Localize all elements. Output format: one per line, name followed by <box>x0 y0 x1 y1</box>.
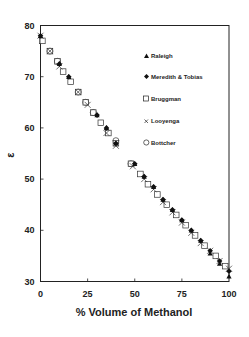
y-tick-label: 80 <box>24 21 34 31</box>
legend-item-raleigh: Raleigh <box>144 53 173 59</box>
data-point-open-square <box>213 253 219 259</box>
data-point-open-square <box>222 263 228 269</box>
x-tick-label: 25 <box>83 289 93 299</box>
data-points <box>38 33 233 279</box>
x-tick-label: 75 <box>177 289 187 299</box>
data-point-open-square <box>183 222 189 228</box>
legend-label: Meredith & Tobias <box>151 74 203 80</box>
filled-diamond-icon <box>144 74 149 79</box>
data-point-open-square <box>164 202 170 208</box>
x-cross-icon <box>145 120 149 124</box>
data-point-open-square <box>145 181 151 187</box>
data-point-open-square <box>60 69 66 75</box>
x-axis-title: % Volume of Methanol <box>76 306 193 318</box>
y-tick-label: 70 <box>24 72 34 82</box>
data-point-open-square <box>155 192 161 198</box>
y-tick-label: 40 <box>24 225 34 235</box>
data-point-open-square <box>83 100 89 106</box>
legend: Raleigh Meredith & Tobias Bruggman Looye… <box>144 53 204 146</box>
filled-triangle-icon <box>144 54 149 59</box>
legend-item-bruggman: Bruggman <box>144 96 182 102</box>
data-point-open-square <box>192 233 198 239</box>
data-point-filled-triangle <box>226 274 231 279</box>
legend-label: Looyenga <box>151 118 180 124</box>
data-point-open-square <box>202 243 208 249</box>
data-point-open-square <box>98 120 104 126</box>
y-tick-label: 50 <box>24 174 34 184</box>
open-circle-icon <box>144 140 149 145</box>
legend-label: Raleigh <box>151 53 173 59</box>
data-point-open-square <box>68 79 74 85</box>
dielectric-constant-chart: 304050607080 0255075100 ε % Volume of Me… <box>0 0 249 337</box>
legend-item-bottcher: Bottcher <box>144 140 177 146</box>
legend-label: Bruggman <box>151 96 181 102</box>
open-square-icon <box>144 96 149 101</box>
x-tick-label: 0 <box>38 289 43 299</box>
x-tick-label: 50 <box>130 289 140 299</box>
legend-item-looyenga: Looyenga <box>145 118 180 124</box>
y-tick-label: 30 <box>24 277 34 287</box>
data-point-open-square <box>173 212 179 218</box>
legend-label: Bottcher <box>151 140 176 146</box>
legend-item-meredith-tobias: Meredith & Tobias <box>144 74 203 80</box>
data-point-filled-diamond <box>226 268 232 274</box>
y-tick-label: 60 <box>24 123 34 133</box>
data-point-open-square <box>40 38 46 44</box>
y-axis-title: ε <box>4 152 16 158</box>
x-tick-label: 100 <box>221 289 236 299</box>
